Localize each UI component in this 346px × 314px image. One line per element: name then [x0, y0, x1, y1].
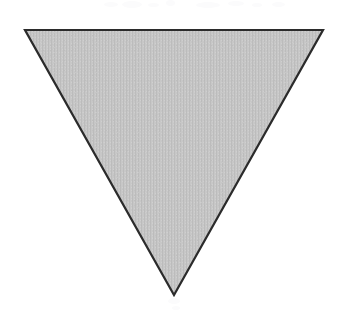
triangle-fill-texture-overlay — [25, 30, 323, 295]
figure-canvas — [0, 0, 346, 314]
triangle-figure-svg — [0, 0, 346, 314]
